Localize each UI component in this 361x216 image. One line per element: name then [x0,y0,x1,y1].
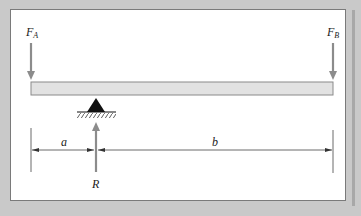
force-b-subscript: B [334,31,339,40]
dimension-a-label: a [61,136,67,148]
beam [31,82,333,95]
force-a-arrow-icon [27,43,35,80]
force-a-label: FA [26,26,38,40]
beam-diagram [0,0,361,216]
pin-support-icon [77,98,116,118]
force-a-subscript: A [33,31,38,40]
reaction-r-arrow-icon [92,122,100,172]
force-b-arrow-icon [329,43,337,80]
dimension-b-label: b [212,136,218,148]
force-b-label: FB [327,26,339,40]
reaction-label: R [92,178,99,190]
